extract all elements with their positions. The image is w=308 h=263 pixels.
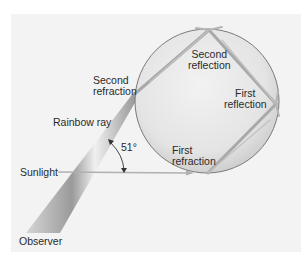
label-second-refraction: Second refraction xyxy=(93,75,137,97)
label-observer: Observer xyxy=(19,236,62,247)
label-line: refraction xyxy=(93,86,137,97)
label-sunlight: Sunlight xyxy=(20,167,58,178)
rainbow-ray-beam xyxy=(26,92,141,233)
label-first-reflection: First reflection xyxy=(224,88,267,110)
label-line: refraction xyxy=(172,156,216,167)
label-angle: 51° xyxy=(121,142,137,153)
label-second-reflection: Second reflection xyxy=(188,49,231,71)
label-first-refraction: First refraction xyxy=(172,145,216,167)
label-rainbow-ray: Rainbow ray xyxy=(53,117,111,128)
label-line: reflection xyxy=(224,99,267,110)
raindrop-diagram xyxy=(0,0,308,263)
label-line: reflection xyxy=(188,60,231,71)
